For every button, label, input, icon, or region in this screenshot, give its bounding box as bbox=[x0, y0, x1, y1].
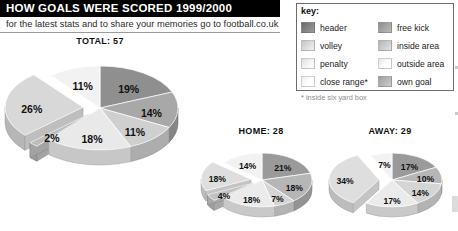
pie-chart-home: HOME: 28 21%18%7%18%4%18%14% bbox=[196, 126, 326, 231]
legend-swatch-icon bbox=[301, 76, 315, 87]
legend-swatch-icon bbox=[378, 40, 392, 51]
pie-label-volley: 7% bbox=[378, 160, 390, 170]
legend-item-label: volley bbox=[320, 41, 342, 51]
pie-label-close range: 18% bbox=[209, 174, 226, 184]
legend-swatch-icon bbox=[378, 58, 392, 69]
legend-item-inside-area: inside area bbox=[378, 37, 444, 54]
legend-item-label: inside area bbox=[397, 41, 439, 51]
pie-label-inside area: 14% bbox=[412, 188, 429, 198]
chart-title-home: HOME: 28 bbox=[196, 126, 326, 136]
legend-item-free-kick: free kick bbox=[378, 19, 444, 36]
chart-title-total: TOTAL: 57 bbox=[0, 36, 200, 46]
pie-label-volley: 11% bbox=[73, 80, 93, 92]
pie-label-own goal: 2% bbox=[44, 132, 59, 144]
legend-swatch-icon bbox=[378, 22, 392, 33]
header-divider bbox=[0, 32, 280, 33]
legend-item-label: free kick bbox=[397, 23, 429, 33]
legend-item-label: own goal bbox=[397, 77, 431, 87]
legend-footnote: * inside six yard box bbox=[301, 93, 367, 102]
legend-swatch-icon bbox=[301, 22, 315, 33]
pie-label-free kick: 10% bbox=[417, 174, 434, 184]
legend-column-right: free kickinside areaoutside areaown goal bbox=[378, 19, 444, 91]
legend-item-label: outside area bbox=[397, 59, 444, 69]
pie-chart-total: TOTAL: 57 19%14%11%18%2%26%11% bbox=[0, 36, 200, 186]
pie-label-header: 17% bbox=[401, 162, 418, 172]
pie-label-outside area: 18% bbox=[243, 195, 260, 205]
legend-swatch-icon bbox=[378, 76, 392, 87]
pie-label-header: 21% bbox=[274, 163, 291, 173]
pie-label-close range: 26% bbox=[21, 103, 42, 115]
legend-title: key: bbox=[301, 6, 319, 16]
page-subtitle: for the latest stats and to share your m… bbox=[6, 19, 278, 29]
pie-label-outside area: 18% bbox=[82, 133, 103, 145]
legend-column-left: headervolleypenaltyclose range* bbox=[301, 19, 368, 91]
legend-item-close-range-: close range* bbox=[301, 73, 368, 90]
pie-svg bbox=[196, 138, 326, 231]
pie-label-free kick: 18% bbox=[286, 183, 303, 193]
pie-canvas-total bbox=[0, 48, 200, 192]
pie-label-close range: 34% bbox=[336, 176, 353, 186]
edge-artifact-bottom bbox=[452, 196, 458, 212]
legend-item-header: header bbox=[301, 19, 368, 36]
legend-item-outside-area: outside area bbox=[378, 55, 444, 72]
pie-chart-away: AWAY: 29 17%10%14%17%34%7% bbox=[322, 126, 458, 231]
pie-label-outside area: 17% bbox=[383, 196, 400, 206]
chart-title-away: AWAY: 29 bbox=[322, 126, 458, 136]
page-title: HOW GOALS WERE SCORED 1999/2000 bbox=[6, 2, 232, 14]
pie-label-header: 19% bbox=[118, 83, 139, 95]
pie-label-inside area: 11% bbox=[125, 126, 145, 138]
pie-label-volley: 14% bbox=[239, 161, 256, 171]
legend-item-label: close range* bbox=[320, 77, 368, 87]
legend-item-label: header bbox=[320, 23, 347, 33]
pie-label-own goal: 4% bbox=[218, 191, 230, 201]
pie-svg bbox=[0, 48, 200, 188]
legend-item-penalty: penalty bbox=[301, 55, 368, 72]
legend-item-label: penalty bbox=[320, 59, 348, 69]
pie-label-free kick: 14% bbox=[141, 107, 162, 119]
pie-canvas-home bbox=[196, 138, 326, 231]
legend-swatch-icon bbox=[301, 40, 315, 51]
legend-swatch-icon bbox=[301, 58, 315, 69]
legend-item-volley: volley bbox=[301, 37, 368, 54]
pie-label-inside area: 7% bbox=[271, 194, 283, 204]
legend-item-own-goal: own goal bbox=[378, 73, 444, 90]
